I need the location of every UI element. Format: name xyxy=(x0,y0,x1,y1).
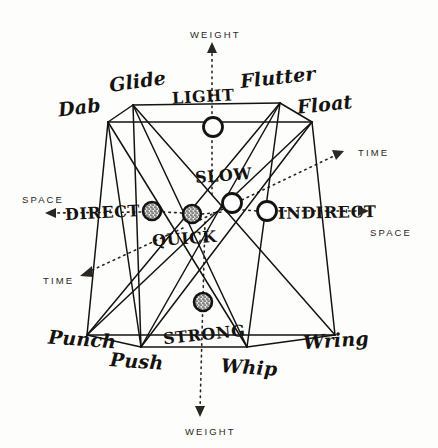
node-direct[interactable] xyxy=(143,202,161,220)
axis-label-space-right: SPACE xyxy=(370,228,412,238)
node-indirect[interactable] xyxy=(258,202,277,221)
node-circle-strong xyxy=(194,293,212,311)
time-upright-arrow xyxy=(332,150,344,160)
edge-flutter-whip xyxy=(247,103,280,347)
node-circle-light xyxy=(204,118,223,137)
action-label-punch: Punch xyxy=(47,328,116,352)
node-circle-slow xyxy=(223,194,242,213)
space-left-arrow xyxy=(45,208,56,218)
quality-label-light: LIGHT xyxy=(172,87,235,106)
weight-up-arrow xyxy=(207,42,217,53)
axis-label-time-upright: TIME xyxy=(358,148,389,158)
quality-label-indirect: INDIRECT xyxy=(278,204,377,222)
axis-label-time-downleft: TIME xyxy=(43,276,74,286)
node-slow[interactable] xyxy=(223,194,242,213)
node-circle-indirect xyxy=(258,202,277,221)
node-circle-direct xyxy=(143,202,161,220)
quality-label-direct: DIRECT xyxy=(65,203,141,223)
effort-graph-diagram: WEIGHT WEIGHT SPACE SPACE TIME TIME LIGH… xyxy=(0,0,438,448)
time-downleft-arrow xyxy=(80,266,93,277)
edge-flutter-push xyxy=(141,103,280,347)
axis-label-weight-down: WEIGHT xyxy=(185,427,236,437)
edge-dab-punch xyxy=(87,122,108,335)
action-label-wring: Wring xyxy=(302,329,369,353)
space-axis-mid-left xyxy=(163,212,183,213)
node-circle-quick xyxy=(183,205,201,223)
quality-label-slow: SLOW xyxy=(195,166,253,186)
axis-label-weight-up: WEIGHT xyxy=(190,30,241,40)
node-strong[interactable] xyxy=(194,293,212,311)
axis-label-space-left: SPACE xyxy=(22,195,64,205)
action-label-whip: Whip xyxy=(220,356,278,379)
edge-glide-dab xyxy=(108,105,133,122)
quality-label-quick: QUICK xyxy=(152,229,218,249)
effort-polyhedron-edges xyxy=(87,103,335,347)
node-quick[interactable] xyxy=(183,205,201,223)
action-label-dab: Dab xyxy=(57,95,102,119)
action-label-push: Push xyxy=(109,350,164,373)
edge-float-wring xyxy=(312,122,335,335)
edge-glide-whip xyxy=(133,105,247,347)
node-light[interactable] xyxy=(204,118,223,137)
weight-down-arrow xyxy=(195,406,205,417)
effort-graph-canvas xyxy=(0,0,438,448)
edge-dab-push xyxy=(108,122,141,347)
edge-glide-push xyxy=(133,105,141,347)
